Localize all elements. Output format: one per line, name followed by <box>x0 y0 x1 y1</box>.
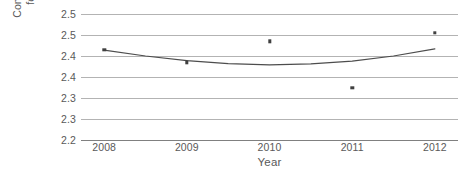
y-axis-title-line-1: Conversion Factor <box>11 0 24 18</box>
y-axis-tick-label: 2.3 <box>46 114 76 125</box>
y-axis-title-line-2: for Electricity <box>24 0 37 5</box>
x-axis-tick-label: 2008 <box>74 141 134 153</box>
y-axis-tick-label: 2.3 <box>46 93 76 104</box>
data-point-marker <box>350 86 353 89</box>
y-axis-tick-label: 2.2 <box>46 135 76 146</box>
data-point-marker <box>185 61 188 64</box>
trend-line-path <box>104 49 435 65</box>
y-axis-tick-label: 2.4 <box>46 72 76 83</box>
y-axis-tick-label: 2.4 <box>46 51 76 62</box>
data-point-marker <box>268 40 271 43</box>
x-axis-tick-label: 2012 <box>405 141 464 153</box>
x-axis-tick-label: 2009 <box>157 141 217 153</box>
x-axis-tick-label: 2010 <box>240 141 300 153</box>
y-axis-title: Conversion Factor for Electricity <box>2 0 46 44</box>
plot-area: 20082009201020112012 <box>81 0 458 179</box>
y-axis-tick-labels: 2.52.52.42.42.32.32.2 <box>44 0 76 179</box>
data-point-marker <box>433 31 436 34</box>
conversion-factor-chart: Conversion Factor for Electricity 2.52.5… <box>0 0 464 179</box>
x-axis-title: Year <box>81 156 458 168</box>
x-axis-tick-label: 2011 <box>322 141 382 153</box>
y-axis-tick-label: 2.5 <box>46 30 76 41</box>
y-axis-tick-label: 2.5 <box>46 9 76 20</box>
data-point-marker <box>102 48 105 51</box>
